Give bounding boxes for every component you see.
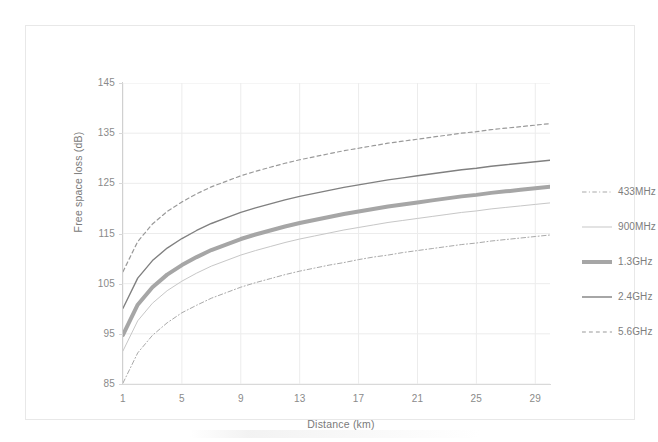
x-axis-line xyxy=(122,384,551,385)
x-tick-label: 1 xyxy=(108,394,138,404)
series-line-2.4ghz xyxy=(123,160,550,308)
x-tick-label: 5 xyxy=(167,394,197,404)
legend-item-1.3ghz[interactable]: 1.3GHz xyxy=(582,244,658,279)
legend-label: 1.3GHz xyxy=(618,256,653,267)
x-tick-label: 25 xyxy=(461,394,491,404)
chart-page: Free space loss (dB) 8595105115125135145… xyxy=(0,0,658,442)
y-tick-label: 135 xyxy=(81,128,115,138)
legend-label: 433MHz xyxy=(618,186,656,197)
series-line-5.6ghz xyxy=(123,124,550,272)
y-tick-label: 125 xyxy=(81,178,115,188)
series-line-900mhz xyxy=(123,203,550,351)
page-footer-smudge xyxy=(190,430,480,438)
y-tick-label: 145 xyxy=(81,78,115,88)
series-line-1.3ghz xyxy=(123,187,550,335)
chart-legend: 433MHz900MHz1.3GHz2.4GHz5.6GHz xyxy=(582,174,658,349)
legend-swatch-icon xyxy=(582,187,612,197)
legend-item-433mhz[interactable]: 433MHz xyxy=(582,174,658,209)
legend-swatch-icon xyxy=(582,257,612,267)
x-tick-label: 13 xyxy=(285,394,315,404)
legend-item-5.6ghz[interactable]: 5.6GHz xyxy=(582,314,658,349)
plot-area xyxy=(123,83,550,384)
legend-item-900mhz[interactable]: 900MHz xyxy=(582,209,658,244)
x-tick-label: 21 xyxy=(402,394,432,404)
x-tick-label: 17 xyxy=(344,394,374,404)
legend-label: 5.6GHz xyxy=(618,326,653,337)
x-tick-label: 29 xyxy=(520,394,550,404)
y-tick-mark xyxy=(119,384,123,385)
series-line-433mhz xyxy=(123,235,550,383)
y-tick-label: 115 xyxy=(81,229,115,239)
chart-frame: Free space loss (dB) 8595105115125135145… xyxy=(25,25,635,420)
series-canvas xyxy=(123,83,550,384)
legend-swatch-icon xyxy=(582,292,612,302)
legend-item-2.4ghz[interactable]: 2.4GHz xyxy=(582,279,658,314)
legend-label: 900MHz xyxy=(618,221,656,232)
y-tick-label: 105 xyxy=(81,279,115,289)
legend-swatch-icon xyxy=(582,222,612,232)
x-axis-title: Distance (km) xyxy=(206,418,476,430)
legend-label: 2.4GHz xyxy=(618,291,653,302)
y-tick-label: 85 xyxy=(81,379,115,389)
x-tick-label: 9 xyxy=(226,394,256,404)
legend-swatch-icon xyxy=(582,327,612,337)
y-tick-label: 95 xyxy=(81,329,115,339)
